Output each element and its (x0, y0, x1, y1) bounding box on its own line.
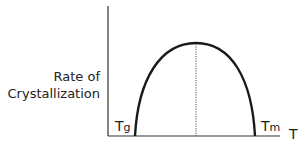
rate-curve (135, 43, 255, 136)
y-axis-label: Rate of Crystallization (8, 68, 100, 102)
y-axis-label-line1: Rate of (8, 68, 100, 85)
tm-subscript: m (270, 121, 281, 134)
y-axis-label-line2: Crystallization (8, 85, 100, 102)
tg-label: Tg (115, 118, 131, 134)
tg-subscript: g (124, 121, 131, 134)
tg-base: T (115, 118, 124, 134)
tm-base: T (261, 118, 270, 134)
x-axis-label: T (289, 126, 298, 142)
tm-label: Tm (261, 118, 280, 134)
